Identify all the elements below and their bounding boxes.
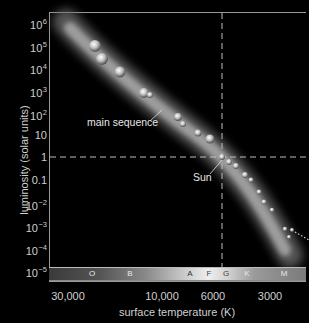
y-tick-1e-5: 10−5	[26, 264, 47, 279]
x-tick-3000: 3000	[258, 290, 282, 302]
main-sequence-label: main sequence	[87, 116, 158, 128]
y-tick-1e6: 106	[30, 16, 47, 31]
y-tick-1e3: 103	[30, 84, 47, 99]
x-axis-label: surface temperature (K)	[119, 306, 235, 318]
y-tick-1: 1	[41, 151, 47, 163]
spectral-class-f: F	[207, 269, 212, 278]
x-tick-10000: 10,000	[145, 290, 179, 302]
y-axis-label: luminosity (solar units)	[18, 90, 30, 230]
spectral-class-k: K	[244, 269, 249, 278]
y-tick-0.1: 0.1	[32, 174, 47, 186]
y-tick-1e4: 104	[30, 61, 47, 76]
spectral-class-a: A	[187, 269, 192, 278]
y-tick-1e-4: 10−4	[26, 242, 47, 257]
y-tick-1e2: 102	[30, 107, 47, 122]
trailing-dots	[295, 232, 309, 240]
x-tick-6000: 6000	[201, 290, 225, 302]
spectral-class-bar	[49, 267, 306, 281]
y-tick-1e5: 105	[30, 39, 47, 54]
spectral-class-o: O	[89, 269, 95, 278]
spectral-class-b: B	[127, 269, 132, 278]
spectral-class-m: M	[281, 269, 288, 278]
x-tick-30000: 30,000	[51, 290, 85, 302]
sun-label: Sun	[193, 171, 212, 183]
y-tick-10: 10	[35, 129, 47, 141]
spectral-class-g: G	[223, 269, 229, 278]
